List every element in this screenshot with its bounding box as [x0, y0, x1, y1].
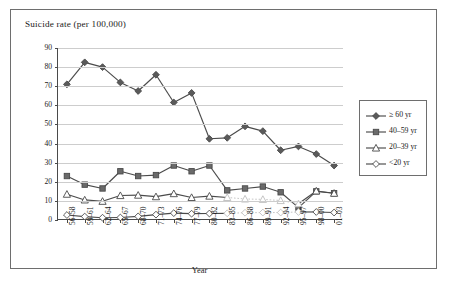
gridline: [58, 163, 343, 164]
data-point-marker: [188, 90, 195, 97]
legend-item-label: ≥ 60 yr: [387, 110, 411, 119]
gridline: [58, 86, 343, 87]
legend-item[interactable]: <20 yr: [363, 154, 423, 170]
data-point-marker: [313, 151, 320, 158]
data-point-marker: [189, 169, 194, 174]
data-point-marker: [63, 191, 70, 198]
y-tick-label: 30: [36, 159, 52, 167]
y-tick-mark: [55, 201, 58, 202]
data-point-marker: [224, 134, 231, 141]
y-tick-mark: [55, 182, 58, 183]
gridline: [58, 144, 343, 145]
gridline: [58, 201, 343, 202]
y-tick-mark: [55, 220, 58, 221]
data-point-marker: [260, 184, 265, 189]
y-tick-mark: [55, 67, 58, 68]
chart-legend: ≥ 60 yr40–59 yr20–39 yr<20 yr: [359, 100, 427, 176]
legend-item-label: 40–59 yr: [387, 126, 417, 135]
data-point-marker: [170, 190, 177, 197]
data-point-marker: [278, 190, 283, 195]
data-point-marker: [100, 186, 105, 191]
legend-item-label: 20–39 yr: [387, 142, 417, 151]
x-tick-label: 74–76: [176, 207, 183, 225]
series-line-segment: [67, 62, 85, 84]
x-tick-label: 86–88: [247, 207, 254, 225]
series-line-segment: [192, 93, 210, 139]
series-line-segment: [263, 131, 281, 150]
x-axis-title: Year: [57, 266, 342, 275]
y-tick-label: 90: [36, 44, 52, 52]
x-tick-label: 65–67: [122, 207, 129, 225]
series-line-segment: [103, 67, 121, 82]
y-tick-mark: [55, 163, 58, 164]
series-line-segment: [174, 93, 192, 103]
y-tick-label: 0: [36, 216, 52, 224]
x-tick-label: 56–58: [69, 207, 76, 225]
legend-marker-icon: [365, 156, 387, 168]
x-tick-label: 98–00: [318, 207, 325, 225]
data-point-marker: [153, 172, 158, 177]
x-tick-label: 01–03: [336, 207, 343, 225]
series-line-segment: [209, 166, 227, 191]
y-tick-mark: [55, 105, 58, 106]
series-line-segment: [156, 75, 174, 103]
data-point-marker: [242, 186, 247, 191]
data-point-marker: [206, 135, 213, 142]
data-point-marker: [64, 173, 69, 178]
gridline: [58, 124, 343, 125]
legend-marker-icon: [365, 140, 387, 152]
data-point-marker: [225, 188, 230, 193]
y-tick-label: 40: [36, 140, 52, 148]
plot-area: [57, 48, 342, 220]
y-tick-label: 20: [36, 178, 52, 186]
series-line-segment: [316, 154, 334, 165]
data-point-marker: [118, 169, 123, 174]
x-tick-label: 83–85: [229, 207, 236, 225]
gridline: [58, 48, 343, 49]
y-tick-label: 50: [36, 120, 52, 128]
y-tick-mark: [55, 48, 58, 49]
x-tick-label: 68–70: [140, 207, 147, 225]
gridline: [58, 105, 343, 106]
legend-item[interactable]: 40–59 yr: [363, 122, 423, 138]
x-tick-label: 89–91: [265, 207, 272, 225]
x-tick-label: 59–61: [87, 207, 94, 225]
data-point-marker: [135, 173, 140, 178]
x-tick-label: 71–73: [158, 207, 165, 225]
gridline: [58, 67, 343, 68]
gridline: [58, 182, 343, 183]
legend-item[interactable]: ≥ 60 yr: [363, 106, 423, 122]
legend-marker-icon: [365, 108, 387, 120]
x-tick-label: 77–79: [194, 207, 201, 225]
y-tick-label: 10: [36, 197, 52, 205]
y-tick-label: 70: [36, 82, 52, 90]
y-tick-mark: [55, 86, 58, 87]
series-line-segment: [138, 75, 156, 91]
series-layer: [58, 48, 343, 220]
x-tick-label: 62–64: [105, 207, 112, 225]
legend-item-label: <20 yr: [387, 158, 410, 167]
x-tick-label: 80–82: [211, 207, 218, 225]
legend-marker-icon: [365, 124, 387, 136]
figure-frame: Suicide rate (per 100,000) 0102030405060…: [10, 9, 437, 269]
x-tick-label: 95–97: [300, 207, 307, 225]
y-tick-mark: [55, 124, 58, 125]
y-tick-label: 80: [36, 63, 52, 71]
series-line-segment: [227, 126, 245, 137]
y-tick-label: 60: [36, 101, 52, 109]
y-tick-mark: [55, 144, 58, 145]
legend-item[interactable]: 20–39 yr: [363, 138, 423, 154]
x-tick-label: 92–94: [283, 207, 290, 225]
